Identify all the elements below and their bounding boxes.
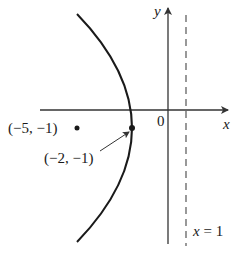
directrix-label: x = 1 <box>193 224 223 239</box>
vertex-point <box>129 125 135 131</box>
y-axis-label: y <box>154 4 161 19</box>
focus-point <box>75 126 80 131</box>
directrix-label-var: x <box>193 223 200 239</box>
vertex-pointer-arrow <box>100 132 129 151</box>
parabola-diagram: y x 0 (−5, −1) (−2, −1) x = 1 <box>0 0 242 256</box>
x-axis-label: x <box>223 117 230 132</box>
focus-label: (−5, −1) <box>8 121 57 136</box>
directrix-label-val: 1 <box>216 223 224 239</box>
parabola-curve <box>77 14 132 242</box>
origin-label: 0 <box>157 114 165 129</box>
vertex-label: (−2, −1) <box>44 151 93 166</box>
directrix-label-eq: = <box>203 223 211 239</box>
